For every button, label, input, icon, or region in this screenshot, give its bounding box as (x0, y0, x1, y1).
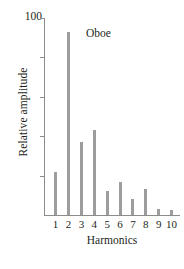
x-axis-tick-label: 2 (66, 218, 72, 230)
y-axis-title: Relative amplitude (17, 37, 29, 187)
bars-layer (44, 18, 180, 216)
x-axis-tick-label: 4 (92, 218, 98, 230)
x-axis-title: Harmonics (44, 234, 180, 246)
bar (54, 172, 57, 215)
x-axis-tick-label: 6 (117, 218, 123, 230)
x-axis-ticks: 12345678910 (44, 218, 180, 234)
x-axis-tick-label: 1 (53, 218, 59, 230)
bar (131, 199, 134, 215)
bar (106, 191, 109, 215)
bar (80, 142, 83, 215)
bar (157, 209, 160, 215)
y-axis-top-tick-label: 100 (18, 10, 42, 22)
chart-figure: 100 Relative amplitude Oboe 12345678910 … (0, 0, 184, 269)
x-axis-tick-label: 9 (156, 218, 162, 230)
x-axis-tick-label: 7 (130, 218, 136, 230)
x-axis-tick-label: 10 (166, 218, 177, 230)
bar (144, 189, 147, 215)
plot-area (44, 18, 180, 215)
x-axis-tick-label: 3 (79, 218, 85, 230)
x-axis-tick-label: 8 (143, 218, 149, 230)
bar (170, 210, 173, 215)
x-axis-tick-label: 5 (104, 218, 110, 230)
bar (93, 130, 96, 215)
bar (67, 32, 70, 215)
bar (119, 182, 122, 215)
